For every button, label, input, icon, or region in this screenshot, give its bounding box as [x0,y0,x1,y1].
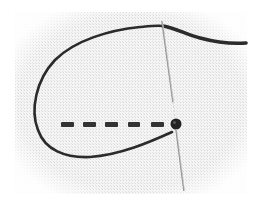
stitch [128,122,140,127]
stitch [151,122,164,127]
stitch [61,122,74,127]
embroidery-photo [0,0,260,207]
stitch [105,122,118,127]
stitch [83,122,96,127]
thread-knot [171,119,182,130]
